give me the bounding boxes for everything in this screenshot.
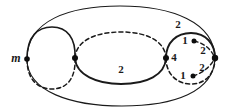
- vertex-right-chain: [163, 55, 169, 61]
- figure-root: m 2 2 1 4 2 2 1: [0, 0, 237, 112]
- vertex-left: [24, 56, 30, 62]
- vertex-far-right: [212, 55, 218, 61]
- label-right-left-vertex: 4: [171, 51, 177, 63]
- vertex-center: [72, 55, 78, 61]
- label-right-top-inner: 1: [182, 34, 188, 46]
- left-circle-top-curve: [27, 27, 75, 59]
- label-right-mid-right: 2: [200, 44, 206, 56]
- middle-ellipse-top-curve: [75, 32, 166, 58]
- vertex-lower-inner-dot: [191, 74, 196, 79]
- label-right-top-outer: 2: [175, 18, 181, 30]
- left-circle-bottom-curve: [27, 58, 75, 89]
- vertex-upper-inner-dot: [192, 39, 197, 44]
- label-right-bottom-right: 2: [199, 61, 205, 73]
- label-right-bottom-inner: 1: [180, 69, 186, 81]
- label-m: m: [11, 51, 20, 65]
- diagram-canvas: m 2 2 1 4 2 2 1: [0, 0, 237, 112]
- label-middle-edge: 2: [118, 63, 124, 75]
